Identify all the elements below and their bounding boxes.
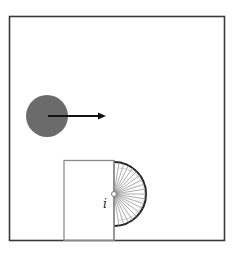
pivot-label: i: [103, 197, 107, 211]
turnstile-wheel: [114, 162, 146, 226]
diagram-canvas: i: [0, 0, 232, 259]
pivot-point: [112, 192, 117, 197]
